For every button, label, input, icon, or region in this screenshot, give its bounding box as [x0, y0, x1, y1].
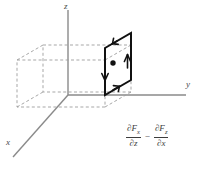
face-center-dot — [110, 60, 115, 65]
formula-term-1-denominator: ∂z — [128, 139, 138, 148]
formula-term-2-numerator-subscript: z — [165, 128, 168, 135]
formula-term-1-numerator-subscript: x — [137, 128, 140, 135]
formula-term-2: ∂Fz ∂x — [154, 124, 168, 148]
z-axis-label: z — [64, 2, 68, 11]
formula-term-2-numerator: ∂Fz — [154, 124, 168, 136]
highlighted-right-face — [102, 33, 131, 95]
formula-term-2-denominator: ∂x — [156, 139, 166, 148]
x-axis-label: x — [6, 138, 10, 147]
formula-term-1: ∂Fx ∂z — [126, 124, 141, 148]
formula-operator: − — [141, 131, 154, 141]
y-axis-label: y — [186, 80, 190, 89]
box-edge-bottom-right — [105, 92, 131, 107]
x-axis — [13, 95, 68, 157]
box-front-face — [17, 60, 105, 107]
box-edge-top-left — [17, 45, 43, 60]
box-edge-bottom-left — [17, 92, 43, 107]
partial-derivative-formula: ∂Fx ∂z − ∂Fz ∂x — [126, 124, 200, 148]
formula-term-1-numerator-main: ∂F — [127, 123, 137, 133]
formula-term-1-numerator: ∂Fx — [126, 124, 141, 136]
formula-term-2-numerator-main: ∂F — [155, 123, 165, 133]
